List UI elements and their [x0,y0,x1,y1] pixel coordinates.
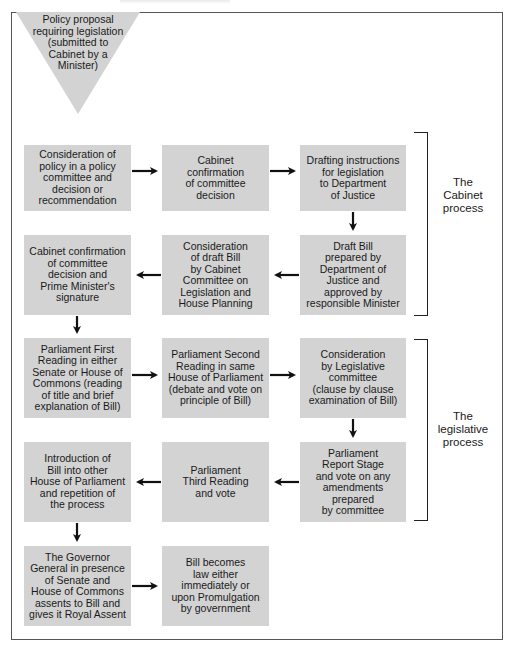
flow-arrows [0,0,516,652]
